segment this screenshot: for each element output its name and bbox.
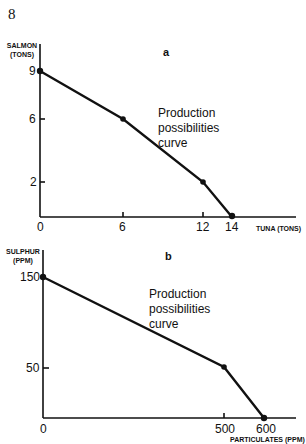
chart-b-xtick: 0 [40,422,47,436]
chart-b-ylabel: SULPHUR (PPM) [2,247,44,265]
annotation-line: curve [149,317,210,332]
chart-a-ytick: 9 [29,64,36,78]
annotation-line: possibilities [149,302,210,317]
chart-b-panel-label: b [165,250,172,262]
chart-a-panel-label: a [163,46,169,58]
chart-a-ylabel: SALMON (TONS) [4,41,40,59]
chart-b-axes [43,250,296,418]
chart-b-xlabel: PARTICULATES (PPM) [230,435,305,444]
chart-b-xtick: 600 [256,422,276,436]
annotation-line: Production [158,106,219,121]
chart-b-ytick: 50 [26,361,39,375]
chart-a-ytick: 2 [30,175,37,189]
chart-a-ytick: 6 [29,112,36,126]
chart-b-ylabel-line2: (PPM) [2,256,44,265]
annotation-line: possibilities [158,121,219,136]
chart-b-ytick: 150 [20,270,40,284]
chart-b-xtick: 500 [215,422,235,436]
chart-b-annotation: Production possibilities curve [149,287,210,332]
chart-a-ylabel-line1: SALMON [4,41,40,50]
chart-a-xlabel: TUNA (TONS) [256,224,301,233]
annotation-line: Production [149,287,210,302]
chart-a-xtick: 0 [37,220,44,234]
chart-a-xtick: 14 [225,220,238,234]
annotation-line: curve [158,136,219,151]
chart-a-xtick: 6 [119,220,126,234]
chart-b-ylabel-line1: SULPHUR [2,247,44,256]
chart-a-annotation: Production possibilities curve [158,106,219,151]
chart-a-xtick: 12 [196,220,209,234]
chart-a-ylabel-line2: (TONS) [4,50,40,59]
